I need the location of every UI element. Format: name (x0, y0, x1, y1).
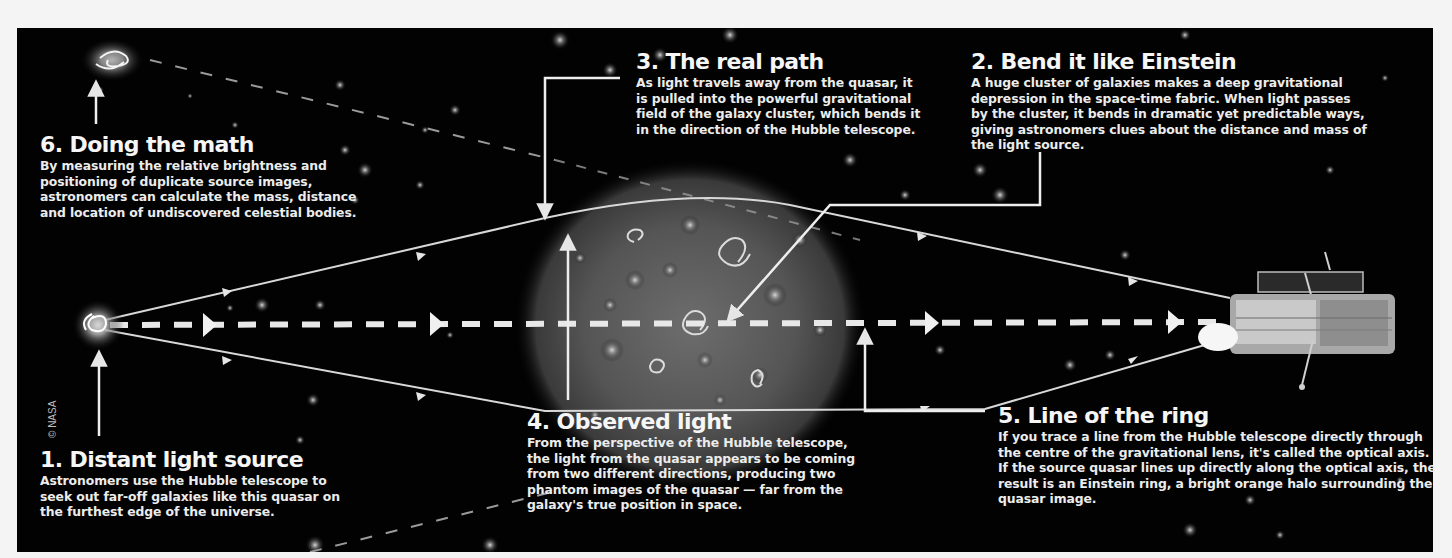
step-title: 4. Observed light (527, 410, 867, 434)
step-2-bend-it-like-einstein: 2. Bend it like Einstein A huge cluster … (971, 50, 1371, 153)
image-credit: © NASA (47, 401, 58, 438)
quasar-galaxy-icon (72, 299, 124, 351)
hubble-telescope-icon (1198, 252, 1395, 390)
step-body: A huge cluster of galaxies makes a deep … (971, 75, 1371, 153)
step-1-distant-light-source: 1. Distant light source Astronomers use … (40, 448, 360, 520)
step-title: 5. Line of the ring (998, 404, 1438, 428)
step-body: As light travels away from the quasar, i… (636, 75, 921, 137)
optical-axis (110, 322, 1225, 325)
step-body: From the perspective of the Hubble teles… (527, 435, 867, 513)
step-body: Astronomers use the Hubble telescope to … (40, 473, 360, 520)
step-body: By measuring the relative brightness and… (40, 158, 370, 220)
step-body: If you trace a line from the Hubble tele… (998, 429, 1438, 507)
step-title: 1. Distant light source (40, 448, 360, 472)
step-3-the-real-path: 3. The real path As light travels away f… (636, 50, 921, 137)
step-title: 2. Bend it like Einstein (971, 50, 1371, 74)
step-6-doing-the-math: 6. Doing the math By measuring the relat… (40, 133, 370, 220)
step-title: 3. The real path (636, 50, 921, 74)
step-title: 6. Doing the math (40, 133, 370, 157)
phantom-galaxy-icon (80, 38, 144, 82)
step-5-line-of-the-ring: 5. Line of the ring If you trace a line … (998, 404, 1438, 507)
step-4-observed-light: 4. Observed light From the perspective o… (527, 410, 867, 513)
